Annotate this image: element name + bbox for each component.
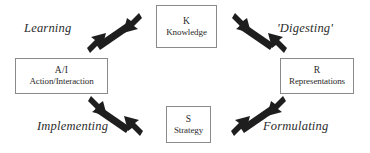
node-strategy-code: S [186, 114, 191, 125]
connection-label-formulating: Formulating [263, 119, 328, 134]
connection-label-learning: Learning [24, 21, 71, 36]
node-knowledge[interactable]: K Knowledge [156, 5, 217, 48]
arrow-learning [87, 13, 142, 53]
knowledge-cycle-diagram: K Knowledge A/I Action/Interaction R Rep… [0, 0, 370, 153]
node-representations[interactable]: R Representations [280, 58, 354, 94]
node-representations-code: R [314, 65, 321, 76]
node-knowledge-code: K [183, 16, 190, 27]
node-strategy-label: Strategy [174, 125, 203, 135]
node-action-interaction-code: A/I [55, 65, 68, 76]
connection-label-digesting: 'Digesting' [277, 21, 333, 36]
node-knowledge-label: Knowledge [166, 27, 207, 37]
node-action-interaction-label: Action/Interaction [29, 76, 93, 86]
connection-label-implementing: Implementing [37, 119, 108, 134]
node-strategy[interactable]: S Strategy [166, 106, 211, 143]
node-action-interaction[interactable]: A/I Action/Interaction [15, 58, 108, 94]
node-representations-label: Representations [289, 76, 345, 86]
